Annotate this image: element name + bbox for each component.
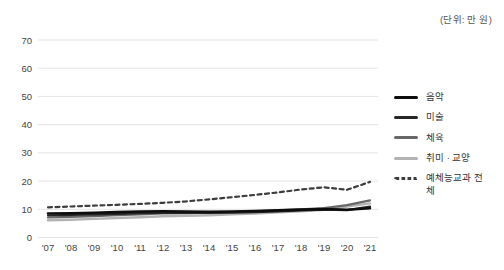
svg-text:70: 70 [21, 35, 32, 46]
hobby-culture-line-swatch [394, 157, 418, 160]
chart-legend: 음악 미술 체육 취미 · 교양 예체능교과 전체 [394, 91, 484, 197]
legend-item-arts-pe-total: 예체능교과 전체 [394, 172, 484, 197]
svg-text:50: 50 [21, 91, 32, 102]
svg-text:'15: '15 [226, 242, 238, 253]
svg-text:30: 30 [21, 147, 32, 158]
legend-item-hobby-culture: 취미 · 교양 [394, 152, 484, 164]
svg-text:'13: '13 [180, 242, 192, 253]
legend-label-arts-pe-total: 예체능교과 전체 [426, 172, 484, 197]
svg-text:10: 10 [21, 204, 32, 215]
art-line-swatch [394, 116, 418, 119]
svg-text:'14: '14 [203, 242, 215, 253]
pe-line-swatch [394, 136, 418, 139]
svg-text:'17: '17 [272, 242, 284, 253]
legend-label-hobby-culture: 취미 · 교양 [426, 152, 470, 164]
legend-label-music: 음악 [426, 91, 444, 103]
svg-text:'12: '12 [157, 242, 169, 253]
legend-label-art: 미술 [426, 111, 444, 123]
svg-text:'18: '18 [295, 242, 307, 253]
svg-text:40: 40 [21, 119, 32, 130]
svg-text:'16: '16 [249, 242, 261, 253]
svg-text:20: 20 [21, 176, 32, 187]
svg-text:0: 0 [27, 232, 32, 243]
svg-text:'09: '09 [88, 242, 100, 253]
svg-text:'10: '10 [111, 242, 123, 253]
legend-item-pe: 체육 [394, 132, 484, 144]
svg-text:'11: '11 [134, 242, 146, 253]
arts-pe-total-dashed-swatch [394, 177, 418, 180]
private-education-expense-line-chart: (단위: 만 원) 010203040506070'07'08'09'10'11… [0, 0, 504, 270]
svg-text:'20: '20 [341, 242, 353, 253]
legend-label-pe: 체육 [426, 132, 444, 144]
svg-text:60: 60 [21, 63, 32, 74]
svg-text:'21: '21 [364, 242, 376, 253]
svg-text:'19: '19 [318, 242, 330, 253]
music-line-swatch [394, 96, 418, 100]
legend-item-art: 미술 [394, 111, 484, 123]
svg-text:'07: '07 [42, 242, 54, 253]
legend-item-music: 음악 [394, 91, 484, 103]
svg-text:'08: '08 [65, 242, 77, 253]
